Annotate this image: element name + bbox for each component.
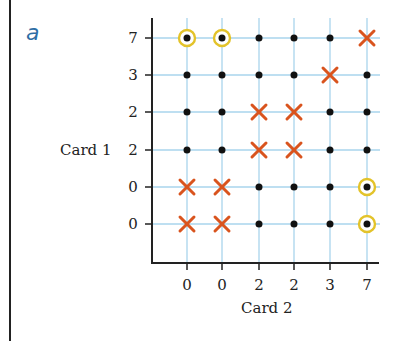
- dot-marker: [291, 221, 298, 228]
- scatter-chart: 732200002237 Card 1 Card 2: [0, 0, 413, 341]
- dot-marker: [327, 35, 334, 42]
- dot-marker: [256, 35, 263, 42]
- dot-marker: [327, 109, 334, 116]
- dot-marker: [219, 35, 226, 42]
- dot-marker: [219, 72, 226, 79]
- x-tick-label: 7: [362, 276, 372, 294]
- dot-marker: [291, 184, 298, 191]
- y-tick-label: 2: [128, 103, 138, 121]
- dot-marker: [184, 147, 191, 154]
- x-tick-label: 3: [325, 276, 335, 294]
- data-markers: [179, 30, 375, 232]
- dot-marker: [364, 72, 371, 79]
- x-tick-label: 0: [217, 276, 227, 294]
- y-tick-label: 7: [128, 29, 138, 47]
- dot-marker: [256, 72, 263, 79]
- x-tick-label: 0: [182, 276, 192, 294]
- dot-marker: [184, 72, 191, 79]
- dot-marker: [327, 221, 334, 228]
- dot-marker: [219, 147, 226, 154]
- dot-marker: [219, 109, 226, 116]
- y-tick-label: 3: [128, 66, 138, 84]
- dot-marker: [184, 35, 191, 42]
- dot-marker: [291, 72, 298, 79]
- y-tick-label: 2: [128, 141, 138, 159]
- dot-marker: [364, 109, 371, 116]
- dot-marker: [291, 35, 298, 42]
- x-axis-title: Card 2: [241, 299, 293, 317]
- dot-marker: [364, 184, 371, 191]
- dot-marker: [327, 184, 334, 191]
- x-tick-label: 2: [254, 276, 264, 294]
- dot-marker: [364, 221, 371, 228]
- dot-marker: [184, 109, 191, 116]
- y-tick-label: 0: [128, 178, 138, 196]
- dot-marker: [256, 184, 263, 191]
- y-tick-label: 0: [128, 215, 138, 233]
- dot-marker: [364, 147, 371, 154]
- x-tick-label: 2: [289, 276, 299, 294]
- dot-marker: [256, 221, 263, 228]
- dot-marker: [327, 147, 334, 154]
- y-axis-title: Card 1: [60, 141, 112, 159]
